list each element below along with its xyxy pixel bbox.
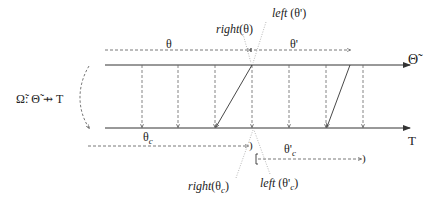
- right-theta-c-label: right(θc): [188, 180, 229, 195]
- theta-c-prime-label: θ'c: [284, 143, 296, 158]
- theta-c-close-paren: ): [249, 140, 253, 151]
- mapping-curve-arrow: [80, 66, 89, 128]
- theta-label: θ: [166, 38, 172, 50]
- left-theta-c-prime-label: left (θ'c): [260, 177, 298, 192]
- right-theta-pointer: [243, 34, 251, 63]
- top-axis-label: Θ̃: [408, 53, 418, 67]
- theta-prime-label: θ': [290, 38, 298, 50]
- diagonal-map-2: [327, 65, 350, 127]
- mapping-label: Ω̃: Θ̃ ⇸ T: [16, 93, 63, 105]
- left-theta-prime-pointer: [253, 22, 266, 63]
- left-theta-c-prime-pointer: [254, 130, 270, 174]
- diagonal-map-1: [216, 65, 252, 127]
- diagram-canvas: [0, 0, 430, 201]
- left-theta-prime-label: left (θ'): [272, 7, 306, 19]
- theta-c-prime-close-paren: ): [362, 153, 366, 164]
- right-theta-c-pointer: [236, 130, 253, 178]
- right-theta-label: right(θ): [216, 23, 253, 35]
- theta-c-label: θc: [143, 131, 153, 146]
- mapping-lines: [142, 65, 363, 127]
- bottom-axis-label: T: [408, 134, 416, 147]
